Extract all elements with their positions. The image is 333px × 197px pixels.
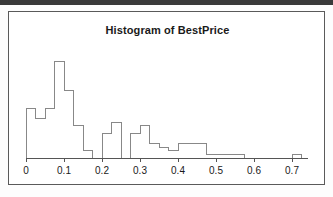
x-axis-tick-label: 0.3	[133, 165, 147, 176]
x-axis-tick-label: 0.2	[95, 165, 109, 176]
x-axis	[26, 158, 308, 162]
histogram-outline	[26, 62, 302, 158]
x-axis-tick-label: 0	[23, 165, 29, 176]
histogram-bars	[26, 62, 302, 158]
scan-edge-artifact	[0, 0, 333, 5]
x-axis-tick-label: 0.1	[57, 165, 71, 176]
histogram-svg: 00.10.20.30.40.50.60.7	[9, 12, 326, 186]
x-axis-tick-label: 0.4	[171, 165, 185, 176]
x-axis-tick-label: 0.7	[285, 165, 299, 176]
scanned-page: Histogram of BestPrice 00.10.20.30.40.50…	[0, 0, 333, 197]
x-axis-tick-label: 0.5	[209, 165, 223, 176]
x-axis-tick-labels: 00.10.20.30.40.50.60.7	[23, 165, 299, 176]
histogram-plot: 00.10.20.30.40.50.60.7	[9, 12, 326, 186]
figure-frame: Histogram of BestPrice 00.10.20.30.40.50…	[8, 11, 325, 185]
x-axis-tick-label: 0.6	[247, 165, 261, 176]
